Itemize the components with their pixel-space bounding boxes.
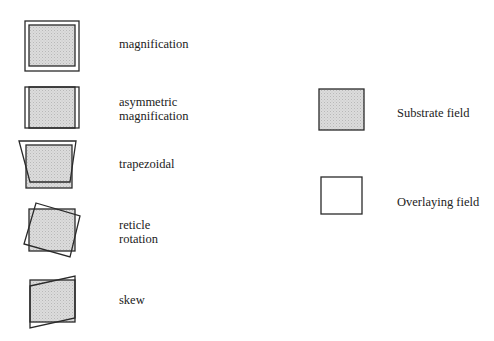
reticle-rotation-shape: [24, 203, 80, 257]
skew-shape: [30, 276, 75, 328]
substrate-field-square: [30, 280, 75, 322]
label-asymmetric-magnification: asymmetric magnification: [119, 95, 188, 123]
legend-substrate-swatch: [319, 89, 364, 130]
label-line: magnification: [119, 109, 188, 123]
label-reticle-rotation: reticle rotation: [119, 218, 158, 246]
substrate-field-square: [29, 209, 75, 251]
substrate-field-square: [29, 87, 75, 128]
label-skew: skew: [119, 293, 145, 307]
overlay-error-diagram: [0, 0, 494, 341]
asymmetric-magnification-shape: [25, 87, 79, 128]
label-line: reticle: [119, 218, 158, 232]
label-line: rotation: [119, 232, 158, 246]
legend-label-overlaying-field: Overlaying field: [397, 195, 479, 209]
label-line: asymmetric: [119, 95, 188, 109]
substrate-field-square: [29, 25, 75, 66]
label-magnification: magnification: [119, 37, 188, 51]
legend-label-substrate-field: Substrate field: [397, 106, 470, 120]
label-trapezoidal: trapezoidal: [119, 157, 175, 171]
trapezoidal-shape: [19, 141, 76, 188]
magnification-shape: [25, 21, 79, 71]
legend-overlay-swatch: [321, 177, 362, 214]
